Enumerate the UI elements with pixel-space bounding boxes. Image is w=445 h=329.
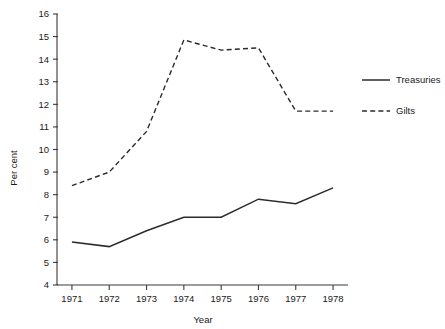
chart-canvas: 45678910111213141516 1971197219731974197… [0,0,445,329]
x-tick-label: 1973 [136,293,157,304]
x-tick-label: 1974 [173,293,194,304]
line-chart: 45678910111213141516 1971197219731974197… [0,0,445,329]
data-series-group [72,40,333,247]
x-tick-label: 1978 [323,293,344,304]
y-axis-title: Per cent [8,150,19,186]
chart-legend: TreasuriesGilts [362,74,441,116]
x-tick-label: 1975 [211,293,232,304]
axes-group [57,14,348,285]
x-tick-label: 1972 [99,293,120,304]
y-axis-tick-labels: 45678910111213141516 [38,8,49,290]
y-tick-label: 6 [44,234,49,245]
y-tick-label: 5 [44,257,49,268]
x-axis-title: Year [193,314,212,325]
x-tick-label: 1977 [285,293,306,304]
y-tick-label: 9 [44,166,49,177]
y-tick-label: 13 [38,76,49,87]
y-tick-label: 15 [38,31,49,42]
x-tick-label: 1976 [248,293,269,304]
y-tick-label: 12 [38,99,49,110]
legend-label-treasuries: Treasuries [396,74,441,85]
y-tick-label: 10 [38,144,49,155]
y-tick-label: 14 [38,54,49,65]
series-line-treasuries [72,188,333,247]
series-line-gilts [72,40,333,186]
y-tick-label: 7 [44,212,49,223]
y-tick-label: 4 [44,279,49,290]
x-axis-ticks [72,285,333,290]
legend-label-gilts: Gilts [396,105,415,116]
y-tick-label: 16 [38,8,49,19]
y-tick-label: 8 [44,189,49,200]
x-tick-label: 1971 [61,293,82,304]
x-axis-tick-labels: 19711972197319741975197619771978 [61,293,343,304]
y-tick-label: 11 [39,121,49,132]
